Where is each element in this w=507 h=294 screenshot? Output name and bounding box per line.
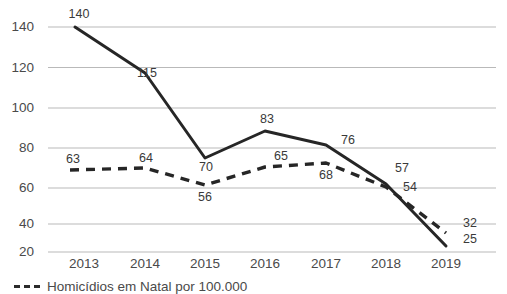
x-tick-label-2013: 2013 [54,256,114,271]
legend-dashed-line-icon [14,285,40,288]
legend-item-label: Homicídios em Natal por 100.000 [47,279,247,294]
x-tick-label-2018: 2018 [356,256,416,271]
data-label-solid-2018: 57 [387,161,417,175]
data-label-solid-2013: 140 [62,7,96,21]
data-label-solid-2016: 83 [252,112,282,126]
data-label-dashed-2013: 63 [58,152,88,166]
data-label-dashed-2017: 68 [311,168,341,182]
data-label-solid-2014: 115 [130,66,164,80]
x-tick-label-2015: 2015 [175,256,235,271]
x-tick-label-2019: 2019 [416,256,476,271]
data-label-dashed-2014: 64 [131,151,161,165]
x-tick-label-2016: 2016 [235,256,295,271]
data-label-solid-2017: 76 [333,133,363,147]
legend: Homicídios em Natal por 100.000 [14,279,247,294]
data-label-dashed-2015: 56 [190,190,220,204]
data-label-dashed-2019: 32 [455,216,485,230]
data-label-dashed-2016: 65 [266,149,296,163]
data-label-solid-2019: 25 [455,232,485,246]
data-label-solid-2015: 70 [191,160,221,174]
data-label-dashed-2018: 54 [395,180,425,194]
x-tick-label-2014: 2014 [115,256,175,271]
gridlines [48,27,496,252]
series-line-solid [75,27,446,246]
x-tick-label-2017: 2017 [296,256,356,271]
